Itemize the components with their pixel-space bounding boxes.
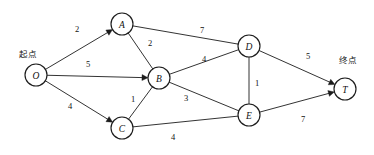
node-label-E: E <box>245 111 252 121</box>
arrowhead-O-B <box>142 75 148 81</box>
edge-line-O-A <box>45 31 109 69</box>
edge-weight-O-B: 5 <box>86 59 90 69</box>
node-label-O: O <box>33 71 40 81</box>
edge-weight-B-C: 1 <box>131 94 135 104</box>
edge-line-O-C <box>45 81 109 121</box>
edge-weight-O-A: 2 <box>75 24 79 34</box>
graph-diagram: 254274134157 OABCDET 起点终点 <box>0 0 374 155</box>
annotation-end: 终点 <box>339 55 357 65</box>
node-label-A: A <box>118 20 125 30</box>
node-E[interactable]: E <box>238 104 260 126</box>
arrowhead-O-A <box>106 30 113 36</box>
node-O[interactable]: O <box>25 64 47 86</box>
node-label-T: T <box>342 85 348 95</box>
edge-line-E-T <box>260 93 332 112</box>
edge-O-C <box>45 81 112 122</box>
arrowhead-E-T <box>328 91 335 97</box>
node-label-D: D <box>245 42 253 52</box>
edge-weight-D-E: 1 <box>255 78 259 88</box>
edge-weight-D-T: 5 <box>306 51 310 61</box>
node-label-B: B <box>156 74 162 84</box>
graph-canvas: 254274134157 OABCDET 起点终点 <box>0 0 374 155</box>
edge-O-B <box>47 75 148 81</box>
node-D[interactable]: D <box>238 35 260 57</box>
edge-weight-C-E: 4 <box>171 132 176 142</box>
edge-weight-A-B: 2 <box>148 38 152 48</box>
edge-C-E <box>133 116 238 127</box>
edge-B-E <box>169 82 239 111</box>
annotation-start: 起点 <box>19 49 37 59</box>
node-B[interactable]: B <box>148 67 170 89</box>
edge-line-C-E <box>133 116 238 127</box>
edge-E-T <box>260 91 335 113</box>
edge-weights-layer: 254274134157 <box>68 24 310 142</box>
edge-weight-B-D: 4 <box>202 54 207 64</box>
edge-O-A <box>45 30 112 70</box>
edge-weight-A-D: 7 <box>200 25 204 35</box>
node-label-C: C <box>119 124 126 134</box>
node-A[interactable]: A <box>111 13 133 35</box>
edge-D-T <box>259 51 335 85</box>
arrowhead-O-C <box>106 117 113 123</box>
edge-line-D-T <box>259 51 332 84</box>
edge-weight-O-C: 4 <box>68 101 73 111</box>
node-C[interactable]: C <box>111 117 133 139</box>
edge-weight-E-T: 7 <box>301 114 305 124</box>
edges-layer <box>45 26 335 127</box>
edge-weight-B-E: 3 <box>184 93 188 103</box>
edge-line-O-B <box>47 75 145 77</box>
edge-line-B-E <box>169 82 239 111</box>
node-T[interactable]: T <box>334 78 356 100</box>
